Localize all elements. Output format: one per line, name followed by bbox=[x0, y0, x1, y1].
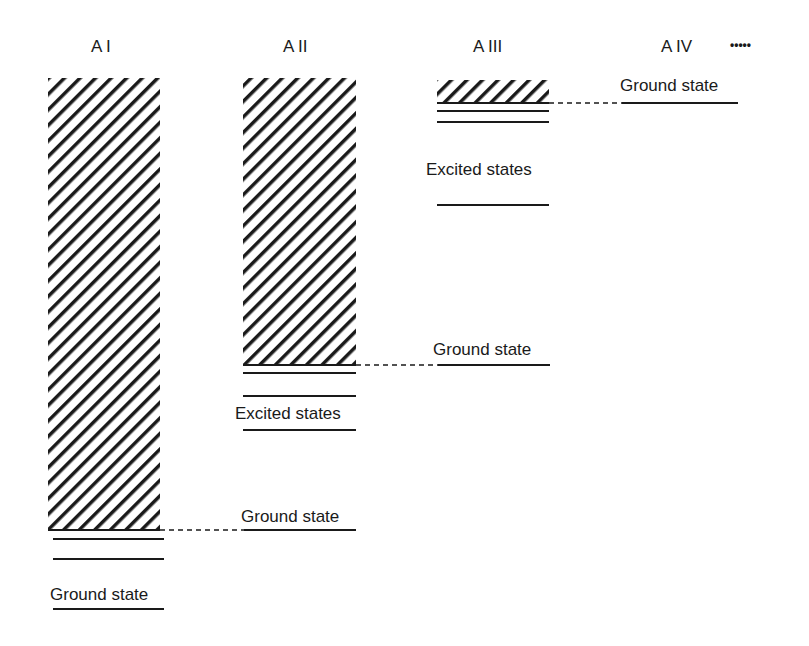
a-ii-title: A II bbox=[283, 38, 308, 55]
a-i-to-a-ii-ground-state-label: Ground state bbox=[241, 508, 339, 525]
a-i-continuum-band bbox=[48, 78, 160, 530]
column-a-ii bbox=[243, 78, 438, 530]
a-i-title: A I bbox=[91, 38, 111, 55]
a-iv-title: A IV bbox=[661, 38, 692, 55]
energy-level-diagram: A I A II A III A IV ••••• Ground state E… bbox=[0, 0, 809, 646]
column-a-iii bbox=[437, 80, 622, 365]
a-ii-to-a-iii-ground-state-label: Ground state bbox=[433, 341, 531, 358]
column-a-i bbox=[48, 78, 244, 609]
a-iv-ground-state-label: Ground state bbox=[620, 77, 718, 94]
a-ii-excited-states-label: Excited states bbox=[235, 405, 341, 422]
a-ii-continuum-band bbox=[243, 78, 356, 365]
diagram-graphics bbox=[0, 0, 809, 646]
a-i-ground-state-label: Ground state bbox=[50, 586, 148, 603]
a-iii-continuum-band bbox=[437, 80, 549, 103]
a-iii-excited-states-label: Excited states bbox=[426, 161, 532, 178]
a-iii-title: A III bbox=[473, 38, 502, 55]
continuation-dots: ••••• bbox=[730, 38, 751, 52]
